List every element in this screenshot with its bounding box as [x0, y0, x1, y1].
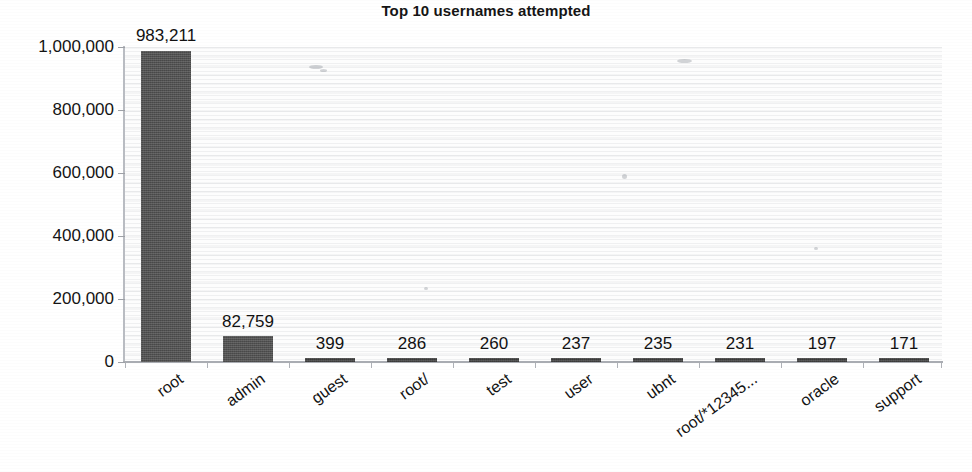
x-axis-tick [371, 363, 372, 368]
bar-root-12345[interactable] [715, 358, 765, 362]
scan-speck [677, 59, 692, 63]
bar-value-label: 82,759 [198, 312, 298, 332]
x-axis-tick [781, 363, 782, 368]
x-axis-tick [125, 363, 126, 368]
scan-speck [424, 287, 428, 290]
scan-speck [814, 247, 818, 250]
x-axis-tick [941, 363, 942, 368]
scan-speck [309, 65, 323, 69]
y-axis-tick [118, 173, 125, 174]
bar-root[interactable] [141, 51, 191, 362]
y-axis-tick [118, 299, 125, 300]
y-axis-tick [118, 236, 125, 237]
bar-chart: Top 10 usernames attempted 1,000,000 800… [0, 0, 972, 472]
x-axis-tick [699, 363, 700, 368]
bar-test[interactable] [469, 358, 519, 362]
bar-ubnt[interactable] [633, 358, 683, 362]
bar-oracle[interactable] [797, 358, 847, 362]
bar-value-label: 171 [854, 334, 954, 354]
y-axis-tick-label: 0 [14, 352, 114, 372]
bar-value-label: 983,211 [116, 26, 216, 46]
scan-speck [320, 69, 327, 72]
y-axis-tick-label: 600,000 [14, 163, 114, 183]
bar-root-slash[interactable] [387, 358, 437, 362]
bar-support[interactable] [879, 358, 929, 362]
bar-user[interactable] [551, 358, 601, 362]
y-axis-line [123, 46, 125, 363]
y-axis-tick-label: 1,000,000 [14, 37, 114, 57]
x-axis-tick [289, 363, 290, 368]
y-axis-tick-label: 200,000 [14, 289, 114, 309]
bar-guest[interactable] [305, 358, 355, 362]
bar-admin[interactable] [223, 336, 273, 362]
y-axis-tick [118, 110, 125, 111]
scan-speck [622, 174, 627, 179]
x-axis-tick [453, 363, 454, 368]
chart-title: Top 10 usernames attempted [0, 2, 972, 19]
y-axis-tick [118, 47, 125, 48]
x-axis-tick [863, 363, 864, 368]
y-axis-tick-label: 800,000 [14, 100, 114, 120]
y-axis-tick [118, 362, 125, 363]
y-axis-tick-label: 400,000 [14, 226, 114, 246]
x-axis-tick [617, 363, 618, 368]
x-axis-tick [207, 363, 208, 368]
x-axis-tick [535, 363, 536, 368]
